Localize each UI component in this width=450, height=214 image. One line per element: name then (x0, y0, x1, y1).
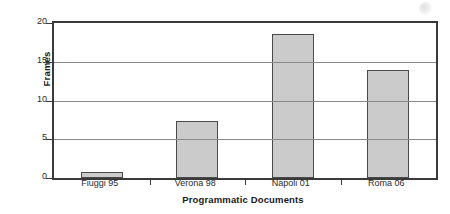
gridline (54, 139, 436, 140)
y-tick-label: 15 (25, 55, 47, 64)
y-tick-label: 10 (25, 94, 47, 103)
y-axis-tick-labels: 05101520 (25, 0, 47, 214)
y-tickmark (46, 23, 53, 24)
bar-chart: Frames 05101520 Fiuggi 95Verona 98Napoli… (0, 0, 450, 214)
x-tick-label: Fiuggi 95 (52, 178, 148, 189)
y-tick-label: 20 (25, 17, 47, 26)
y-tickmark (46, 62, 53, 63)
bar (176, 121, 218, 178)
bar (367, 70, 409, 178)
x-axis-tick-labels: Fiuggi 95Verona 98Napoli 01Roma 06 (52, 178, 434, 192)
plot-area (52, 21, 438, 180)
scan-artifact (419, 2, 432, 15)
bar (272, 34, 314, 178)
x-tick-label: Roma 06 (339, 178, 435, 189)
y-tickmark (46, 139, 53, 140)
x-tick-label: Verona 98 (148, 178, 244, 189)
gridline (54, 101, 436, 102)
y-tickmark (46, 101, 53, 102)
x-tick-label: Napoli 01 (243, 178, 339, 189)
y-tick-label: 5 (25, 133, 47, 142)
gridline (54, 62, 436, 63)
y-tick-label: 0 (25, 172, 47, 181)
x-axis-title: Programmatic Documents (52, 194, 434, 205)
